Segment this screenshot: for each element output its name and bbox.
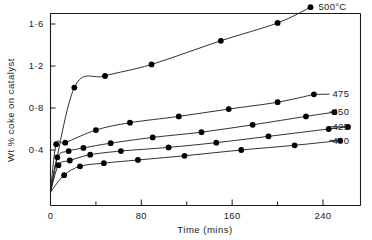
y-axis-tick-labels: 0·40·81·21·6 [29, 18, 44, 155]
data-point [93, 127, 99, 133]
data-point [166, 144, 172, 150]
series-label-425: 425 [333, 121, 350, 132]
data-point [118, 148, 124, 154]
data-point [101, 160, 107, 166]
series-label-450: 450 [333, 106, 350, 117]
y-tick-label: 0·4 [29, 144, 44, 155]
data-point [308, 4, 314, 10]
data-point [54, 154, 60, 160]
data-point [150, 135, 156, 141]
series-end-labels: 500°C475450425400 [317, 1, 351, 145]
data-point [182, 153, 188, 159]
y-axis-ticks [51, 24, 56, 150]
series-curve-475 [51, 94, 314, 192]
data-point [81, 145, 87, 151]
data-point [71, 85, 77, 91]
series-curve-450 [51, 112, 335, 192]
y-tick-label: 0·8 [29, 102, 44, 113]
x-tick-label: 80 [136, 210, 147, 221]
data-point [303, 114, 309, 120]
x-tick-label: 160 [224, 210, 241, 221]
y-tick-label: 1·6 [29, 18, 44, 29]
series-label-500C: 500°C [319, 1, 347, 12]
x-axis-ticks [96, 200, 323, 206]
data-point [56, 162, 62, 168]
data-point [266, 133, 272, 139]
x-axis-title: Time (mins) [177, 224, 232, 235]
data-point [226, 106, 232, 112]
y-axis-title: Wt % coke on catalyst [5, 58, 16, 162]
data-point [127, 120, 133, 126]
data-point [62, 140, 68, 146]
data-point [176, 114, 182, 120]
data-point [275, 20, 281, 26]
data-point [238, 147, 244, 153]
data-point [311, 91, 317, 97]
data-point [218, 38, 224, 44]
data-point [66, 148, 72, 154]
data-point [135, 157, 141, 163]
series-curve-400 [51, 141, 341, 192]
x-tick-label: 0 [48, 210, 54, 221]
x-tick-label: 240 [315, 210, 332, 221]
coke-deposition-chart: 0·40·81·21·6 080160240 500°C475450425400… [0, 0, 372, 240]
data-point [53, 141, 59, 147]
y-tick-label: 1·2 [29, 60, 44, 71]
data-point [250, 122, 256, 128]
data-point [199, 129, 205, 135]
data-point [77, 163, 83, 169]
data-point [61, 172, 67, 178]
series-curves [51, 7, 348, 192]
series-curve-425 [51, 127, 348, 192]
data-point [275, 99, 281, 105]
data-point [102, 73, 108, 79]
data-point [149, 62, 155, 68]
axes-group [51, 13, 361, 206]
data-point [67, 158, 73, 164]
x-axis-tick-labels: 080160240 [48, 210, 332, 221]
series-label-400: 400 [333, 135, 350, 146]
series-data-points [53, 4, 351, 178]
data-point [108, 140, 114, 146]
data-point [292, 142, 298, 148]
data-point [87, 152, 93, 158]
chart-canvas: 0·40·81·21·6 080160240 500°C475450425400… [0, 0, 372, 240]
data-point [213, 140, 219, 146]
series-label-475: 475 [333, 88, 350, 99]
